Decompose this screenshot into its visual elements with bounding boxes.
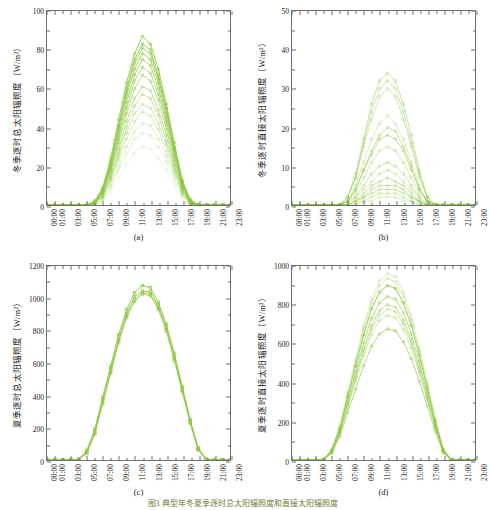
x-tick-mark	[412, 11, 413, 15]
subplot-b-label: (b)	[291, 232, 476, 242]
x-tick-mark	[151, 11, 152, 15]
x-minor-tick	[420, 203, 421, 206]
y-tick-mark	[226, 11, 230, 12]
data-series-line	[47, 112, 230, 205]
y-tick-mark	[471, 207, 475, 208]
x-tick-mark	[167, 11, 168, 15]
x-tick-mark	[103, 266, 104, 270]
x-minor-tick	[223, 458, 224, 461]
y-minor-tick	[292, 324, 295, 325]
data-series-line	[47, 48, 230, 205]
y-tick-label: 400	[33, 392, 44, 401]
data-series-line	[292, 135, 475, 205]
x-minor-tick	[175, 266, 176, 269]
data-series-line	[47, 87, 230, 205]
x-tick-label: 09:00	[122, 209, 131, 226]
x-minor-tick	[372, 11, 373, 14]
x-tick-mark	[167, 201, 168, 205]
data-series-line	[292, 178, 475, 205]
y-minor-tick	[292, 442, 295, 443]
x-tick-mark	[348, 266, 349, 270]
y-minor-tick	[228, 187, 231, 188]
x-minor-tick	[95, 11, 96, 14]
x-tick-mark	[47, 456, 48, 460]
x-tick-mark	[380, 11, 381, 15]
x-tick-label: 19:00	[448, 209, 457, 226]
x-tick-label: 05:00	[335, 464, 344, 481]
y-tick-mark	[47, 50, 51, 51]
y-tick-label: 600	[33, 360, 44, 369]
x-tick-mark	[396, 266, 397, 270]
x-tick-mark	[151, 201, 152, 205]
x-minor-tick	[308, 458, 309, 461]
x-minor-tick	[63, 266, 64, 269]
x-tick-mark	[183, 201, 184, 205]
x-tick-mark	[348, 11, 349, 15]
y-minor-tick	[47, 282, 50, 283]
x-tick-mark	[119, 266, 120, 270]
x-tick-mark	[300, 11, 301, 15]
y-minor-tick	[292, 285, 295, 286]
x-minor-tick	[175, 11, 176, 14]
x-tick-label: 17:00	[432, 209, 441, 226]
y-tick-mark	[226, 89, 230, 90]
x-minor-tick	[436, 203, 437, 206]
x-minor-tick	[95, 203, 96, 206]
x-minor-tick	[207, 203, 208, 206]
y-tick-label: 800	[33, 327, 44, 336]
y-tick-label: 100	[33, 7, 44, 16]
x-tick-mark	[332, 11, 333, 15]
x-minor-tick	[95, 266, 96, 269]
y-tick-mark	[226, 167, 230, 168]
y-minor-tick	[473, 364, 476, 365]
x-tick-mark	[332, 456, 333, 460]
x-tick-label: 05:00	[335, 209, 344, 226]
x-minor-tick	[340, 458, 341, 461]
data-series-line	[47, 104, 230, 205]
y-tick-mark	[292, 128, 296, 129]
x-tick-label: 09:00	[367, 209, 376, 226]
x-minor-tick	[324, 458, 325, 461]
subplot-a-curves	[47, 11, 230, 205]
x-minor-tick	[324, 203, 325, 206]
data-series-line	[292, 170, 475, 205]
x-tick-mark	[316, 11, 317, 15]
y-minor-tick	[473, 69, 476, 70]
x-tick-mark	[300, 266, 301, 270]
x-tick-mark	[215, 266, 216, 270]
y-minor-tick	[228, 69, 231, 70]
data-series-line	[292, 162, 475, 205]
y-tick-label: 1000	[274, 262, 289, 271]
x-minor-tick	[159, 458, 160, 461]
y-minor-tick	[47, 413, 50, 414]
y-tick-label: 50	[282, 7, 290, 16]
x-minor-tick	[420, 266, 421, 269]
x-tick-label: 11:00	[138, 209, 147, 226]
y-tick-mark	[471, 266, 475, 267]
x-minor-tick	[143, 203, 144, 206]
x-minor-tick	[63, 458, 64, 461]
y-minor-tick	[228, 380, 231, 381]
y-minor-tick	[292, 69, 295, 70]
data-series-line	[47, 285, 230, 460]
x-tick-label: 21:00	[219, 209, 228, 226]
subplot-c-curves	[47, 266, 230, 460]
x-minor-tick	[175, 458, 176, 461]
y-minor-tick	[47, 69, 50, 70]
y-tick-label: 80	[37, 46, 45, 55]
subplot-d-plot-area: 0200400600800100000:0001:0003:0005:0007:…	[291, 265, 476, 461]
x-minor-tick	[143, 11, 144, 14]
x-tick-label: 01:00	[303, 209, 312, 226]
x-tick-mark	[71, 11, 72, 15]
x-minor-tick	[324, 11, 325, 14]
x-tick-label: 03:00	[74, 464, 83, 481]
x-tick-mark	[412, 456, 413, 460]
x-minor-tick	[308, 11, 309, 14]
y-minor-tick	[292, 187, 295, 188]
y-tick-label: 600	[278, 340, 289, 349]
x-tick-mark	[199, 201, 200, 205]
data-series-line	[292, 81, 475, 205]
y-minor-tick	[292, 30, 295, 31]
y-minor-tick	[47, 347, 50, 348]
